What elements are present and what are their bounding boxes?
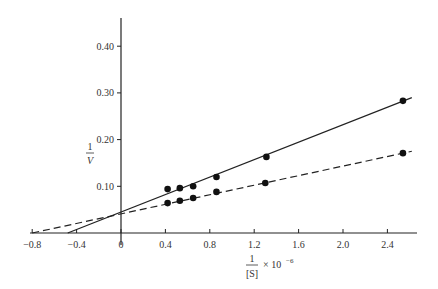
x-tick-label: 2.4	[381, 239, 394, 250]
solid-data-point	[400, 98, 407, 105]
x-label-den: [S]	[246, 268, 258, 279]
solid-data-point	[190, 183, 197, 190]
dashed-data-point	[213, 189, 220, 196]
dashed-data-point	[400, 150, 407, 157]
solid-data-point	[177, 185, 184, 192]
y-tick-label: 0.10	[97, 181, 115, 192]
y-label-den: V	[87, 155, 95, 166]
y-axis-label: 1 V	[86, 141, 95, 166]
dashed-data-point	[164, 200, 171, 207]
x-tick-label: 0.8	[204, 239, 217, 250]
y-label-num: 1	[88, 141, 93, 152]
dashed-data-point	[177, 197, 184, 204]
dashed-data-point	[262, 180, 269, 187]
y-ticks: 0.100.200.300.40	[97, 41, 122, 192]
y-tick-label: 0.40	[97, 41, 115, 52]
solid-data-point	[213, 174, 220, 181]
x-ticks: −0.8−0.400.40.81.21.62.02.4	[23, 229, 394, 250]
x-tick-label: −0.8	[23, 239, 41, 250]
x-tick-label: 0	[119, 239, 124, 250]
x-label-suffix: × 10	[263, 259, 281, 270]
x-tick-label: 0.4	[159, 239, 172, 250]
x-tick-label: 2.0	[337, 239, 350, 250]
solid-data-point	[164, 186, 171, 193]
x-tick-label: −0.4	[68, 239, 86, 250]
x-label-exp: −6	[286, 257, 294, 265]
x-label-num: 1	[250, 253, 255, 264]
lineweaver-burk-plot: −0.8−0.400.40.81.21.62.02.4 0.100.200.30…	[0, 0, 438, 289]
dashed-data-point	[190, 195, 197, 202]
x-tick-label: 1.6	[292, 239, 305, 250]
axes	[30, 18, 417, 245]
y-tick-label: 0.20	[97, 134, 115, 145]
x-tick-label: 1.2	[248, 239, 261, 250]
solid-fit-line	[68, 98, 412, 233]
y-tick-label: 0.30	[97, 87, 115, 98]
solid-data-point	[263, 154, 270, 161]
x-axis-label: 1 [S] × 10 −6	[246, 253, 294, 279]
